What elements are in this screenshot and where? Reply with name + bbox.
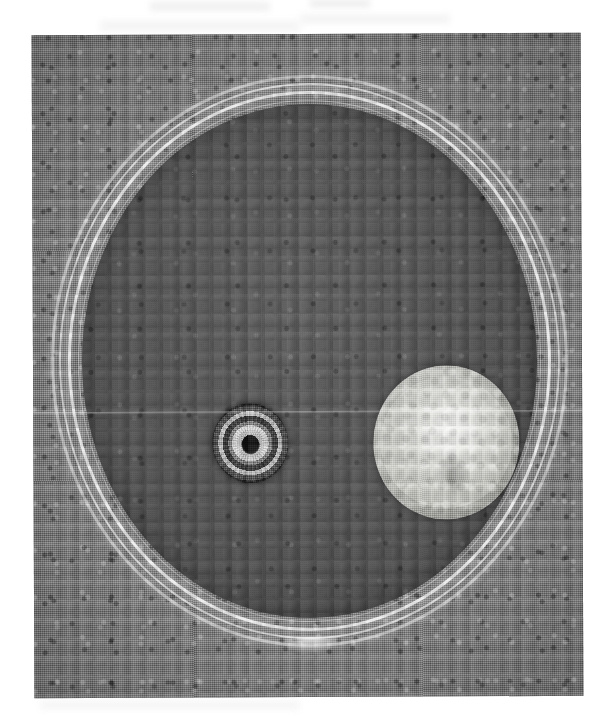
scan-smudge <box>310 0 370 7</box>
scan-smudge <box>150 2 270 11</box>
page-canvas <box>0 0 609 727</box>
photograph <box>32 33 584 698</box>
agar-halftone-texture <box>81 103 538 619</box>
light-colony-shadow <box>370 362 523 523</box>
light-colony <box>370 362 523 523</box>
scan-smudge <box>100 20 300 32</box>
agar-surface <box>81 103 538 619</box>
scan-smudge <box>300 14 450 24</box>
petri-dish <box>50 74 569 648</box>
scan-smudge <box>40 700 300 710</box>
dish-bottom-tab <box>285 637 337 652</box>
